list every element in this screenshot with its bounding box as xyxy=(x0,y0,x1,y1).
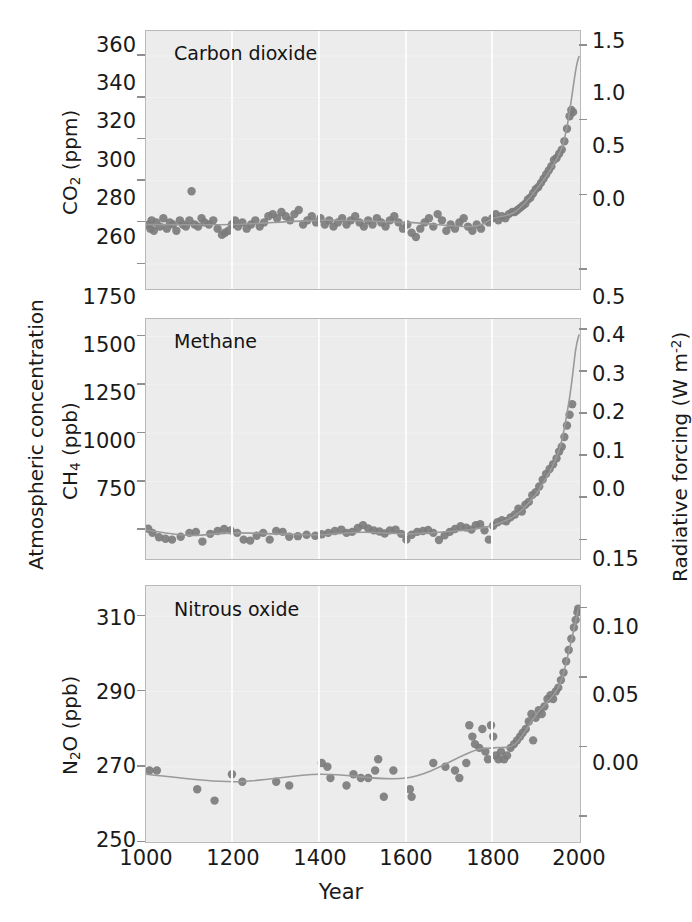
axis-tickmark xyxy=(579,496,587,498)
axis-tickmark xyxy=(579,119,587,121)
axis-tickmark xyxy=(137,335,145,337)
n2o-plot-area xyxy=(145,585,581,843)
n2o-gridline-1800 xyxy=(491,586,493,842)
axis-tickmark xyxy=(137,221,145,223)
n2o-gridline-1400 xyxy=(318,586,320,842)
xtick-1000: 1000 xyxy=(110,846,182,870)
axis-tickmark xyxy=(579,412,587,414)
n2o-gridline-1600 xyxy=(405,586,407,842)
axis-tickmark xyxy=(579,746,587,748)
n2o-data-layer xyxy=(146,586,580,842)
axis-tickmark xyxy=(137,54,145,56)
axis-tickmark xyxy=(579,454,587,456)
axis-tickmark xyxy=(579,815,587,817)
n2o-ytick-310: 310 xyxy=(78,606,136,630)
axis-tickmark xyxy=(579,607,587,609)
xtick-1200: 1200 xyxy=(197,846,269,870)
axis-tickmark xyxy=(579,44,587,46)
x-axis-title: Year xyxy=(0,880,682,904)
n2o-ytick-270: 270 xyxy=(78,754,136,778)
axis-tickmark xyxy=(137,841,145,843)
axis-tickmark xyxy=(137,96,145,98)
axis-tickmark xyxy=(137,480,145,482)
axis-tickmark xyxy=(137,690,145,692)
n2o-rtick-0.10: 0.10 xyxy=(592,615,666,639)
axis-tickmark xyxy=(137,138,145,140)
axis-tickmark xyxy=(579,676,587,678)
n2o-rtick-0.05: 0.05 xyxy=(592,683,666,707)
n2o-rtick-0.15: 0.15 xyxy=(592,547,666,571)
axis-tickmark xyxy=(137,179,145,181)
axis-tickmark xyxy=(137,528,145,530)
xtick-1800: 1800 xyxy=(457,846,529,870)
xtick-1600: 1600 xyxy=(370,846,442,870)
axis-tickmark xyxy=(579,370,587,372)
xtick-2000: 2000 xyxy=(543,846,615,870)
axis-tickmark xyxy=(579,328,587,330)
axis-tickmark xyxy=(579,268,587,270)
axis-tickmark xyxy=(137,383,145,385)
axis-tickmark xyxy=(137,615,145,617)
axis-tickmark xyxy=(137,765,145,767)
xtick-1400: 1400 xyxy=(284,846,356,870)
axis-tickmark xyxy=(579,539,587,541)
axis-tickmark xyxy=(137,432,145,434)
n2o-gridline-1200 xyxy=(231,586,233,842)
axis-tickmark xyxy=(579,194,587,196)
n2o-ytick-290: 290 xyxy=(78,680,136,704)
axis-tickmark xyxy=(137,263,145,265)
n2o-panel-title: Nitrous oxide xyxy=(174,598,299,620)
n2o-rtick-0.00: 0.00 xyxy=(592,751,666,775)
